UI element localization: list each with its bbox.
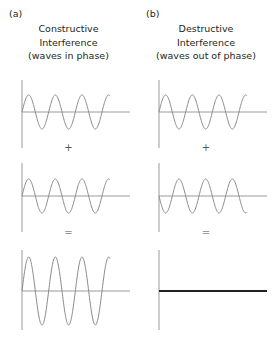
panel-destructive: (b) Destructive Interference (waves out … <box>137 0 275 337</box>
wave-rows-a <box>0 0 137 337</box>
operator-plus-b: + <box>137 143 275 153</box>
panel-constructive: (a) Constructive Interference (waves in … <box>0 0 137 337</box>
wave-rows-b <box>137 0 275 337</box>
operator-equals-a: = <box>0 228 137 238</box>
interference-figure: (a) Constructive Interference (waves in … <box>0 0 275 337</box>
operator-equals-b: = <box>137 228 275 238</box>
wave-plot-b <box>137 0 274 337</box>
wave-plot-a <box>0 0 137 337</box>
operator-plus-a: + <box>0 143 137 153</box>
